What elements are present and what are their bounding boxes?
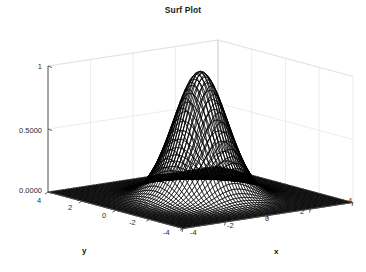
figure-canvas: Surf Plot 1 0.5000 0.0000 4 2 0 -2 -4 -4…	[0, 0, 366, 272]
z-tick-label-0p5: 0.5000	[6, 126, 42, 135]
x-tick-label-neg2: -2	[227, 221, 234, 230]
x-tick-label-4: 4	[348, 196, 352, 205]
y-tick-3	[79, 201, 82, 203]
y-tick-label-4: 4	[37, 196, 41, 205]
x-tick-label-2: 2	[300, 207, 304, 216]
y-tick-label-neg4: -4	[163, 228, 170, 237]
surface-plot	[0, 0, 366, 272]
z-tick-label-1: 1	[10, 62, 42, 71]
x-tick-label-neg4: -4	[190, 228, 197, 237]
y-tick-4	[45, 192, 48, 194]
z-tick-label-0: 0.0000	[6, 186, 42, 195]
y-tick-label-0: 0	[102, 211, 106, 220]
y-axis-label: y	[82, 246, 86, 255]
y-tick-1	[146, 219, 149, 221]
y-tick-label-neg2: -2	[129, 218, 136, 227]
x-axis-label: x	[274, 247, 278, 256]
page-title: Surf Plot	[0, 5, 366, 15]
y-tick-2	[113, 210, 116, 212]
x-tick-label-0: 0	[265, 214, 269, 223]
y-tick-label-2: 2	[68, 203, 72, 212]
